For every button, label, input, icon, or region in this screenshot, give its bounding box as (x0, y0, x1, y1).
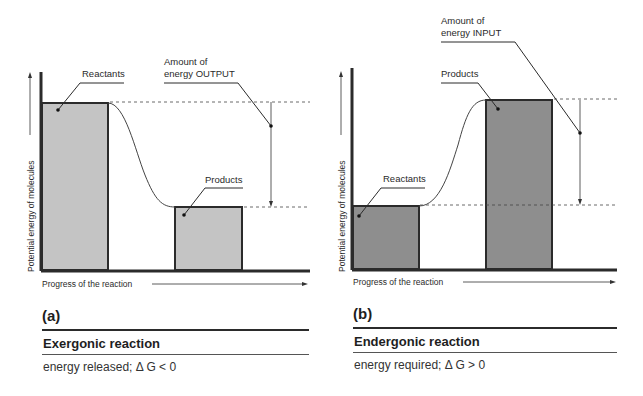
panel-a-divider (42, 329, 309, 331)
arrow-down-icon (269, 201, 273, 207)
reactants-bar (42, 103, 108, 270)
reactants-bar (353, 206, 419, 269)
energy-output-label-line1: Amount of (164, 56, 208, 67)
arrow-down-icon (578, 199, 582, 205)
panel-a-letter: (a) (42, 307, 60, 324)
reactants-label: Reactants (82, 68, 125, 79)
x-axis-label: Progress of the reaction (353, 277, 444, 287)
energy-curve (419, 100, 486, 206)
panel-a-subtitle: energy released; Δ G < 0 (43, 360, 176, 374)
panel-a-diagram: Potential energy of molecules Progress o… (26, 56, 310, 289)
reactants-label: Reactants (383, 173, 426, 184)
panel-a-title: Exergonic reaction (43, 336, 160, 351)
arrow-up-icon (339, 71, 343, 77)
panel-b-divider (353, 327, 617, 329)
arrow-right-icon (610, 280, 616, 284)
energy-input-label-line2: energy INPUT (441, 27, 501, 38)
energy-curve (108, 103, 175, 207)
panel-b-subdivider (353, 352, 617, 353)
products-label: Products (441, 68, 479, 79)
panel-a-subdivider (42, 354, 309, 355)
panel-b-subtitle: energy required; Δ G > 0 (354, 358, 485, 372)
arrow-up-icon (28, 72, 32, 78)
y-axis-label: Potential energy of molecules (337, 160, 347, 272)
arrow-right-icon (302, 282, 308, 286)
products-bar (486, 100, 552, 269)
panel-b-title: Endergonic reaction (354, 334, 480, 349)
panel-b-letter: (b) (353, 305, 372, 322)
panel-b-diagram: Potential energy of molecules Progress o… (337, 15, 618, 287)
energy-output-label-line2: energy OUTPUT (164, 68, 235, 79)
energy-input-label-line1: Amount of (441, 15, 485, 26)
x-axis-label: Progress of the reaction (42, 279, 133, 289)
y-axis-label: Potential energy of molecules (26, 160, 36, 272)
products-label: Products (205, 174, 243, 185)
